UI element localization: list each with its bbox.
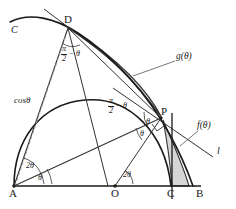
angle-label-half-pi-minus-theta-at-P: π 2 − θ xyxy=(108,97,127,115)
segment-label-cos-theta: cosθ xyxy=(14,96,30,105)
angle-label-half-pi-minus-theta-at-D: π 2 − θ xyxy=(61,45,80,63)
leader-line-f xyxy=(180,131,198,146)
point-label-C: C xyxy=(167,188,174,199)
fraction-rest-P: − θ xyxy=(114,102,127,110)
angle-label-theta-at-P-lower: θ xyxy=(140,130,144,138)
region-label-g-theta: g(θ) xyxy=(176,52,192,62)
angle-label-2theta-at-O: 2θ xyxy=(123,171,131,179)
right-angle-marker-at-P xyxy=(152,124,164,131)
geometry-figure: A O C B D P C l g(θ) f(θ) cosθ 2θ θ 2θ θ… xyxy=(0,0,236,209)
point-label-P: P xyxy=(161,106,167,117)
point-label-D: D xyxy=(64,14,72,25)
point-label-A: A xyxy=(9,188,17,199)
curve-label-circle-C: C xyxy=(11,25,18,35)
segment-AP xyxy=(14,118,161,186)
leader-line-g xyxy=(133,61,175,76)
curve-label-line-l: l xyxy=(217,146,220,156)
region-label-f-theta: f(θ) xyxy=(197,121,211,131)
angle-label-2theta-at-A: 2θ xyxy=(26,162,34,170)
angle-label-theta-at-A: θ xyxy=(38,174,42,182)
point-label-B: B xyxy=(196,188,203,199)
fraction-rest-D: − θ xyxy=(67,50,80,58)
angle-arc-theta-at-A xyxy=(47,169,52,184)
point-label-O: O xyxy=(111,188,119,199)
angle-label-theta-at-P-upper: θ xyxy=(146,118,150,126)
